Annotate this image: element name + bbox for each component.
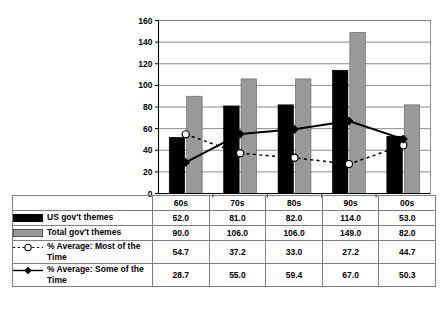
cell-value: 37.2 [209,241,266,264]
cell-value: 28.7 [153,264,210,287]
table-header-60s: 60s [153,196,210,211]
legend-label: US gov't themes [47,212,152,223]
cell-value: 59.4 [266,264,323,287]
cell-value: 67.0 [322,264,379,287]
legend-key-some-of-the-time: % Average: Some of the Time [13,264,153,287]
chart-svg: 020406080100120140160 [0,0,448,200]
y-axis-tick-labels: 020406080100120140160 [138,16,152,199]
cell-value: 114.0 [322,211,379,226]
svg-text:40: 40 [143,145,153,155]
legend-data-table: 60s 70s 80s 90s 00s US gov't themes 52.0… [12,195,436,287]
cell-value: 27.2 [322,241,379,264]
cell-value: 106.0 [209,226,266,241]
cell-value: 82.0 [266,211,323,226]
table-row: % Average: Most of the Time 54.7 37.2 33… [13,241,436,264]
table-header-70s: 70s [209,196,266,211]
chart-plot-area: 020406080100120140160 [0,0,448,200]
gray-swatch-icon [13,228,43,239]
svg-text:140: 140 [138,37,152,47]
legend-key-total-govt-themes: Total gov't themes [13,226,153,241]
table-header-80s: 80s [266,196,323,211]
bars-total-govt-themes [187,32,420,193]
cell-value: 149.0 [322,226,379,241]
markers-most-of-the-time [182,131,407,168]
svg-text:100: 100 [138,80,152,90]
cell-value: 90.0 [153,226,210,241]
table-row: Total gov't themes 90.0 106.0 106.0 149.… [13,226,436,241]
table-header-90s: 90s [322,196,379,211]
legend-key-us-govt-themes: US gov't themes [13,211,153,226]
black-swatch-icon [13,213,43,224]
svg-text:20: 20 [143,167,153,177]
cell-value: 44.7 [379,241,436,264]
table-row: US gov't themes 52.0 81.0 82.0 114.0 53.… [13,211,436,226]
legend-label: % Average: Some of the Time [47,264,152,286]
table-header-00s: 00s [379,196,436,211]
table-header-blank-cell [13,196,153,211]
cell-value: 82.0 [379,226,436,241]
svg-text:120: 120 [138,59,152,69]
legend-key-most-of-the-time: % Average: Most of the Time [13,241,153,264]
table-row: % Average: Some of the Time 28.7 55.0 59… [13,264,436,287]
chart-page: 020406080100120140160 60s 70s 80s 90s 00… [0,0,448,313]
solid-line-diamond-icon [13,265,43,276]
cell-value: 55.0 [209,264,266,287]
legend-label: % Average: Most of the Time [47,241,152,263]
svg-text:80: 80 [143,102,153,112]
bars-us-govt-themes [169,70,402,193]
cell-value: 81.0 [209,211,266,226]
table-header-row: 60s 70s 80s 90s 00s [13,196,436,211]
cell-value: 106.0 [266,226,323,241]
cell-value: 50.3 [379,264,436,287]
legend-label: Total gov't themes [47,227,152,238]
dotted-line-open-circle-icon [13,242,43,253]
cell-value: 53.0 [379,211,436,226]
cell-value: 54.7 [153,241,210,264]
svg-text:60: 60 [143,124,153,134]
cell-value: 33.0 [266,241,323,264]
cell-value: 52.0 [153,211,210,226]
svg-text:160: 160 [138,16,152,26]
